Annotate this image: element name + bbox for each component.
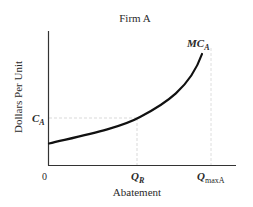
qr-tick-label: QR bbox=[131, 170, 145, 185]
ca-tick-label: CA bbox=[32, 112, 45, 127]
y-axis-label: Dollars Per Unit bbox=[12, 61, 24, 133]
mc-a-label: MCA bbox=[186, 37, 210, 52]
mc-a-curve bbox=[49, 54, 202, 144]
chart: Firm A Dollars Per Unit MCA CA 0 QR Qmax… bbox=[0, 0, 253, 207]
qmax-tick-label: QmaxA bbox=[197, 170, 225, 185]
guide-lines bbox=[49, 48, 211, 165]
chart-title: Firm A bbox=[119, 12, 151, 24]
origin-label: 0 bbox=[42, 171, 47, 182]
x-axis-label: Abatement bbox=[113, 186, 161, 198]
